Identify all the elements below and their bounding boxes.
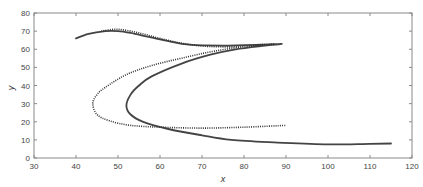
y-tick-label: 70	[21, 27, 30, 36]
x-tick-label: 40	[72, 162, 81, 171]
x-tick-label: 100	[321, 162, 335, 171]
x-tick-label: 120	[405, 162, 419, 171]
x-tick-label: 60	[156, 162, 165, 171]
x-axis-label: x	[220, 174, 226, 184]
y-tick-label: 10	[21, 136, 30, 145]
x-tick-label: 50	[114, 162, 123, 171]
x-tick-label: 70	[198, 162, 207, 171]
chart: 01020304050607080 3040506070809010011012…	[0, 0, 423, 187]
y-tick-label: 50	[21, 63, 30, 72]
x-tick-label: 30	[30, 162, 39, 171]
y-axis-label: y	[6, 85, 16, 91]
y-tick-label: 20	[21, 118, 30, 127]
y-tick-label: 60	[21, 45, 30, 54]
y-tick-label: 30	[21, 100, 30, 109]
x-tick-label: 90	[282, 162, 291, 171]
y-tick-label: 80	[21, 9, 30, 18]
y-tick-label: 40	[21, 82, 30, 91]
x-tick-label: 80	[240, 162, 249, 171]
plot-area	[34, 13, 412, 158]
x-tick-label: 110	[364, 162, 377, 171]
